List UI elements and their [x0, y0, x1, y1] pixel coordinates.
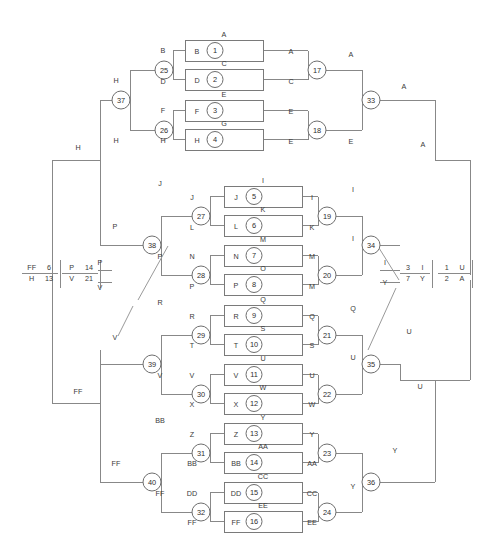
- wire-label: H: [75, 143, 80, 152]
- unit-block[interactable]: KL6: [224, 205, 302, 236]
- wire-label: X: [190, 400, 195, 409]
- unit-inner-label: D: [194, 76, 199, 85]
- wire-label: FF: [188, 518, 197, 527]
- unit-block[interactable]: AABB14: [224, 442, 302, 473]
- unit-top-label: A: [222, 30, 227, 39]
- junction-node[interactable]: 36: [362, 473, 380, 491]
- wire-label: Q: [309, 312, 315, 321]
- unit-block[interactable]: UV11: [224, 354, 302, 385]
- unit-id-text: 14: [250, 458, 258, 467]
- legend-cell: Y: [420, 274, 425, 283]
- node-id-text: 23: [323, 449, 331, 458]
- junction-node[interactable]: 34: [362, 236, 380, 254]
- unit-inner-label: J: [234, 193, 238, 202]
- diagonal-link-I-Y: [379, 248, 399, 280]
- wire-label: AA: [307, 459, 317, 468]
- junction-node[interactable]: 37: [112, 91, 130, 109]
- wire-label: R: [157, 298, 162, 307]
- wire-label: I: [311, 193, 313, 202]
- unit-block[interactable]: OP8: [224, 264, 302, 295]
- wire-label: V: [190, 371, 195, 380]
- junction-node[interactable]: 17: [308, 61, 326, 79]
- wire-label: FF: [112, 459, 121, 468]
- wire-label: W: [309, 400, 316, 409]
- node-id-text: 22: [323, 390, 331, 399]
- junction-node[interactable]: 20: [318, 266, 336, 284]
- unit-block[interactable]: CCDD15: [224, 472, 302, 503]
- node-id-text: 30: [197, 390, 205, 399]
- junction-node[interactable]: 21: [318, 326, 336, 344]
- unit-block[interactable]: QR9: [224, 295, 302, 326]
- unit-inner-label: FF: [232, 518, 241, 527]
- node-id-text: 32: [197, 508, 205, 517]
- wire-label: Q: [350, 304, 356, 313]
- legend-cell: H: [29, 274, 34, 283]
- node-id-text: 27: [197, 212, 205, 221]
- wire-label: L: [190, 223, 194, 232]
- wire-label: I: [352, 234, 354, 243]
- unit-id-text: 3: [213, 106, 217, 115]
- node-id-text: 25: [160, 66, 168, 75]
- unit-top-label: I: [262, 176, 264, 185]
- wire-label: CC: [307, 489, 317, 498]
- unit-block[interactable]: EF3: [185, 90, 263, 121]
- unit-top-label: K: [261, 205, 266, 214]
- unit-block[interactable]: GH4: [185, 119, 263, 150]
- wire-label: P: [158, 252, 163, 261]
- left-outer-legend: FF6H13: [22, 260, 60, 288]
- unit-block[interactable]: IJ5: [224, 176, 302, 207]
- wire-label: Z: [190, 430, 195, 439]
- unit-block[interactable]: CD2: [185, 59, 263, 90]
- unit-top-label: EE: [258, 501, 268, 510]
- node-id-text: 18: [313, 126, 321, 135]
- junction-node[interactable]: 19: [318, 207, 336, 225]
- network-block-diagram: FF6H13P14V213I7Y1U2A AB1CD2EF3GH4IJ5KL6M…: [0, 0, 492, 547]
- unit-block[interactable]: ST10: [224, 324, 302, 355]
- wire-label: V: [158, 371, 163, 380]
- unit-top-label: W: [260, 383, 267, 392]
- junction-node[interactable]: 30: [192, 385, 210, 403]
- node-id-text: 21: [323, 331, 331, 340]
- wire-label: M: [309, 252, 315, 261]
- wire-label: EE: [307, 518, 317, 527]
- junction-node[interactable]: 28: [192, 266, 210, 284]
- unit-id-text: 7: [252, 251, 256, 260]
- unit-top-label: S: [261, 324, 266, 333]
- legend-cell: 7: [406, 274, 410, 283]
- unit-block[interactable]: WX12: [224, 383, 302, 414]
- unit-top-label: M: [260, 235, 266, 244]
- unit-block[interactable]: EEFF16: [224, 501, 302, 532]
- wire-label: N: [189, 252, 194, 261]
- wire-label: BB: [155, 416, 165, 425]
- unit-block[interactable]: MN7: [224, 235, 302, 266]
- node-id-text: 35: [367, 360, 375, 369]
- wire-label: H: [113, 76, 118, 85]
- unit-id-text: 10: [250, 340, 258, 349]
- unit-block[interactable]: YZ13: [224, 413, 302, 444]
- junction-node[interactable]: 22: [318, 385, 336, 403]
- unit-top-label: Q: [260, 295, 266, 304]
- node-id-text: 36: [367, 478, 375, 487]
- node-id-text: 33: [367, 96, 375, 105]
- wire-label: I: [352, 185, 354, 194]
- junction-node[interactable]: 27: [192, 207, 210, 225]
- junction-node[interactable]: 23: [318, 444, 336, 462]
- legend-cell: P: [69, 263, 74, 272]
- node-id-text: 26: [160, 126, 168, 135]
- junction-node[interactable]: 29: [192, 326, 210, 344]
- junction-node[interactable]: 35: [362, 355, 380, 373]
- node-id-text: 19: [323, 212, 331, 221]
- unit-top-label: U: [260, 354, 265, 363]
- junction-node[interactable]: 18: [308, 121, 326, 139]
- diagram-root: FF6H13P14V213I7Y1U2A AB1CD2EF3GH4IJ5KL6M…: [0, 0, 492, 547]
- legend-cell: U: [459, 263, 464, 272]
- left-inner-legend: P14V21: [62, 260, 100, 288]
- unit-block[interactable]: AB1: [185, 30, 263, 61]
- legend-cell: 6: [47, 263, 51, 272]
- junction-node[interactable]: 24: [318, 503, 336, 521]
- unit-id-text: 12: [250, 399, 258, 408]
- legend-cell: 14: [85, 263, 93, 272]
- junction-node[interactable]: 33: [362, 91, 380, 109]
- unit-inner-label: T: [234, 341, 239, 350]
- wire-label: E: [289, 137, 294, 146]
